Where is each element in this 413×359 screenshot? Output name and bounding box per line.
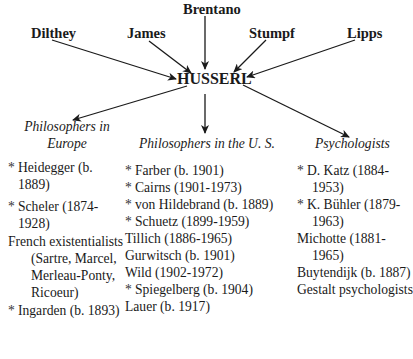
asterisk-marker: * (8, 198, 18, 215)
influence-dilthey: Dilthey (31, 25, 76, 41)
list-item: Buytendijk (b. 1887) (287, 264, 411, 281)
list-item: *D. Katz (1884-1953) (287, 162, 407, 196)
influence-brentano: Brentano (183, 1, 241, 17)
group-psychologists: Psychologists *D. Katz (1884-1953) *K. B… (287, 135, 411, 298)
list-item: Gestalt psychologists (287, 281, 411, 298)
group-title: Philosophers in the U. S. (125, 135, 285, 152)
arrow-lipps-to-husserl (247, 40, 355, 77)
group-title-line: Philosophers in (8, 118, 126, 135)
influence-lipps: Lipps (347, 25, 382, 41)
group-title-line: Europe (8, 135, 126, 152)
item-text: Gurwitsch (b. 1901) (125, 248, 235, 263)
arrow-dilthey-to-husserl (52, 40, 176, 79)
arrow-stumpf-to-husserl (234, 40, 266, 72)
item-text: Wild (1902-1972) (125, 265, 223, 280)
list-item: Tillich (1886-1965) (125, 230, 285, 247)
group-philosophers-us: Philosophers in the U. S. *Farber (b. 19… (125, 135, 285, 315)
item-text: Farber (b. 1901) (135, 163, 224, 178)
list-item: *Cairns (1901-1973) (125, 179, 285, 196)
item-text: Ingarden (b. 1893) (18, 303, 120, 318)
list-item: French existentialists (Sartre, Marcel, … (8, 233, 136, 301)
arrow-james-to-husserl (149, 41, 191, 73)
item-text: Heidegger (b. 1889) (18, 160, 93, 192)
asterisk-marker: * (297, 196, 307, 213)
item-text: Tillich (1886-1965) (125, 231, 232, 246)
list-item: *Farber (b. 1901) (125, 162, 285, 179)
influence-james: James (127, 25, 166, 41)
asterisk-marker: * (297, 162, 307, 179)
list-item: *Ingarden (b. 1893) (8, 302, 126, 319)
item-text: Buytendijk (b. 1887) (297, 265, 411, 280)
list-item: *Scheler (1874-1928) (8, 198, 126, 232)
asterisk-marker: * (125, 196, 135, 213)
center-husserl: HUSSERL (177, 70, 252, 88)
list-item: Wild (1902-1972) (125, 264, 285, 281)
list-item: *von Hildebrand (b. 1889) (125, 196, 285, 213)
group-title: Psychologists (287, 135, 411, 152)
item-text: K. Bühler (1879-1963) (307, 197, 400, 229)
list-item: Michotte (1881-1965) (287, 230, 407, 264)
list-item: *Schuetz (1899-1959) (125, 213, 285, 230)
asterisk-marker: * (8, 159, 18, 176)
list-item: Lauer (b. 1917) (125, 298, 285, 315)
asterisk-marker: * (8, 302, 18, 319)
asterisk-marker: * (125, 281, 135, 298)
item-text: Michotte (1881-1965) (297, 231, 386, 263)
item-text: French existentialists (Sartre, Marcel, … (8, 234, 123, 300)
asterisk-marker: * (125, 179, 135, 196)
influence-stumpf: Stumpf (249, 25, 295, 41)
list-item: *Spiegelberg (b. 1904) (125, 281, 285, 298)
list-item: Gurwitsch (b. 1901) (125, 247, 285, 264)
item-text: Schuetz (1899-1959) (135, 214, 249, 229)
list-item: *Heidegger (b. 1889) (8, 159, 126, 193)
asterisk-marker: * (125, 162, 135, 179)
list-item: *K. Bühler (1879-1963) (287, 196, 412, 230)
arrow-husserl-to-europe (73, 86, 187, 120)
item-text: D. Katz (1884-1953) (307, 163, 389, 195)
item-text: Gestalt psychologists (297, 282, 413, 297)
asterisk-marker: * (125, 213, 135, 230)
arrow-husserl-to-psychologists (243, 85, 349, 137)
item-text: Cairns (1901-1973) (135, 180, 242, 195)
item-text: von Hildebrand (b. 1889) (135, 197, 273, 212)
group-philosophers-europe: Philosophers in Europe *Heidegger (b. 18… (8, 118, 126, 319)
group-title: Philosophers in Europe (8, 118, 126, 152)
item-text: Scheler (1874-1928) (18, 199, 98, 231)
item-text: Spiegelberg (b. 1904) (135, 282, 253, 297)
item-text: Lauer (b. 1917) (125, 299, 210, 314)
